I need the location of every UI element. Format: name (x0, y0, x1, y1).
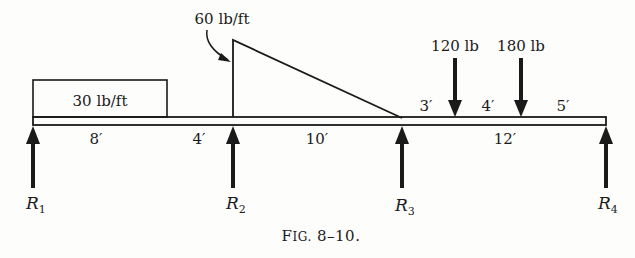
dim-4ft: 4′ (193, 130, 207, 148)
reaction-r2-label: R2 (225, 193, 246, 216)
reaction-r2: R2 (225, 126, 246, 216)
triangular-load-label: 60 lb/ft (195, 10, 250, 28)
point-load-180-label: 180 lb (497, 37, 545, 55)
uniform-load-label: 30 lb/ft (73, 92, 128, 110)
triangular-load: 60 lb/ft (195, 10, 402, 118)
point-load-180: 180 lb (497, 37, 545, 117)
reaction-r4: R4 (597, 126, 618, 216)
reaction-r1-label: R1 (25, 193, 46, 216)
reaction-r1: R1 (25, 126, 46, 216)
figure-caption: FIG. 8–10. (282, 227, 361, 245)
reaction-r3-label: R3 (394, 195, 415, 218)
point-load-120: 120 lb (431, 37, 479, 117)
dim-12ft: 12′ (494, 130, 517, 148)
reaction-r4-label: R4 (597, 193, 618, 216)
point-load-120-label: 120 lb (431, 37, 479, 55)
uniform-load: 30 lb/ft (33, 80, 167, 117)
dim-3ft: 3′ (420, 97, 434, 115)
dim-4ft-b: 4′ (482, 97, 496, 115)
dim-8ft: 8′ (90, 130, 104, 148)
beam (33, 117, 606, 125)
beam-diagram: 30 lb/ft 60 lb/ft 120 lb 180 lb 3′ 4′ 5′… (0, 0, 635, 258)
dim-10ft: 10′ (306, 130, 329, 148)
dim-5ft: 5′ (557, 97, 571, 115)
pointer-arrow-icon (207, 30, 228, 60)
reaction-r3: R3 (394, 126, 415, 218)
